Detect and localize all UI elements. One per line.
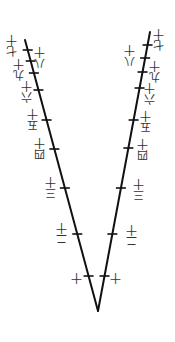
right-arm-line: [98, 32, 150, 311]
numeral-char: 八: [124, 55, 135, 66]
numeral-label-r12: 十二: [126, 224, 137, 246]
numeral-char: 四: [137, 149, 148, 160]
numeral-label-l18a: 十八: [34, 46, 45, 68]
numeral-char: 五: [27, 119, 38, 130]
numeral-label-l14: 十四: [34, 137, 45, 159]
numeral-label-l10: 十: [71, 272, 82, 283]
numeral-char: 八: [34, 57, 45, 68]
numeral-char: 二: [56, 233, 67, 244]
numeral-char: 四: [34, 148, 45, 159]
numeral-label-l15: 十五: [27, 108, 38, 130]
numeral-char: 五: [140, 121, 151, 132]
numeral-char: 七: [153, 39, 164, 50]
numeral-label-r10: 十: [110, 272, 121, 283]
numeral-label-r15: 十五: [140, 110, 151, 132]
numeral-char: 三: [133, 189, 144, 200]
numeral-label-r18: 十八: [124, 44, 135, 66]
v-angle-diagram: [0, 0, 175, 342]
numeral-char: 六: [144, 93, 155, 104]
left-arm-line: [25, 40, 98, 311]
numeral-char: 二: [126, 235, 137, 246]
numeral-char: 七: [6, 45, 17, 56]
numeral-label-r14: 十四: [137, 138, 148, 160]
numeral-label-r19: 十九: [149, 60, 160, 82]
numeral-char: 十: [71, 272, 82, 283]
numeral-char: 六: [21, 91, 32, 102]
numeral-label-r16: 十六: [144, 82, 155, 104]
numeral-label-r17: 十七: [153, 28, 164, 50]
numeral-label-l12: 十二: [56, 222, 67, 244]
numeral-label-l16: 十六: [21, 80, 32, 102]
numeral-char: 三: [45, 187, 56, 198]
numeral-label-l19: 十九: [13, 58, 24, 80]
numeral-label-r13: 十三: [133, 178, 144, 200]
numeral-label-l13: 十三: [45, 176, 56, 198]
numeral-char: 十: [110, 272, 121, 283]
numeral-label-l17: 十七: [6, 34, 17, 56]
